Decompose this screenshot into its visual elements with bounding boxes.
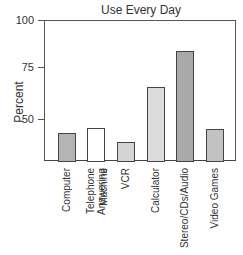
bar-calculator: [147, 87, 165, 162]
y-tick-label-50: 50: [0, 113, 34, 125]
bar-computer: [58, 133, 76, 162]
x-label-vcr: VCR: [120, 168, 131, 189]
bar-video-games: [206, 129, 224, 162]
y-tick-label-100: 100: [0, 14, 34, 26]
y-tick-label-75: 75: [0, 61, 34, 73]
x-label-stereo: Stereo/CDs/Audio: [179, 168, 190, 248]
chart-title: Use Every Day: [45, 3, 237, 17]
x-label-video-games: Video Games: [209, 168, 220, 228]
x-label-telephone-line2: Machine: [98, 168, 109, 206]
x-label-calculator: Calculator: [150, 168, 161, 213]
bar-stereo-cds-audio: [176, 51, 194, 162]
bar-vcr: [117, 142, 135, 162]
bar-telephone-answering-machine: [87, 128, 105, 162]
x-label-computer: Computer: [61, 168, 72, 212]
